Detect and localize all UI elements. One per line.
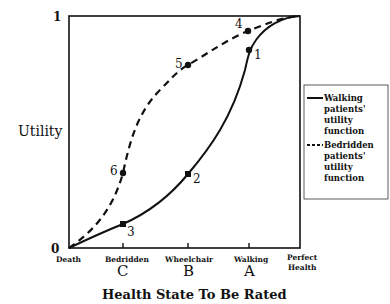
x-label-perfect: Perfect bbox=[287, 253, 318, 262]
legend-walking-line-3: utility bbox=[324, 115, 354, 125]
x-label-health: Health bbox=[288, 263, 317, 272]
point-4 bbox=[245, 28, 251, 34]
legend-walking-line-2: patients' bbox=[324, 104, 366, 114]
point-1 bbox=[246, 47, 252, 53]
point-5 bbox=[185, 62, 191, 68]
legend-bedridden-line-3: utility bbox=[324, 162, 354, 172]
point-label-1: 1 bbox=[254, 48, 262, 62]
legend-bedridden-line-2: patients' bbox=[324, 151, 366, 161]
x-axis-title: Health State To Be Rated bbox=[102, 287, 287, 302]
category-letter-b: B bbox=[183, 262, 194, 280]
category-letter-a: A bbox=[243, 262, 255, 280]
legend-bedridden-line-4: function bbox=[324, 173, 364, 183]
point-label-2: 2 bbox=[193, 172, 201, 186]
y-tick-0: 0 bbox=[51, 242, 59, 256]
point-3 bbox=[120, 221, 126, 227]
point-label-4: 4 bbox=[235, 17, 243, 31]
x-label-death: Death bbox=[56, 255, 82, 264]
point-label-6: 6 bbox=[110, 164, 118, 178]
bedridden-utility-curve bbox=[69, 16, 300, 248]
utility-chart: 1 0 Utility Death Bedridden Wheelchair W… bbox=[0, 0, 390, 304]
category-letter-c: C bbox=[117, 262, 128, 280]
y-axis-label: Utility bbox=[18, 123, 62, 139]
legend: Walking patients' utility function Bedri… bbox=[304, 85, 388, 199]
point-2 bbox=[185, 171, 191, 177]
point-6 bbox=[120, 170, 126, 176]
legend-walking-line-1: Walking bbox=[323, 93, 363, 103]
point-label-5: 5 bbox=[175, 57, 183, 71]
data-points bbox=[120, 28, 252, 227]
legend-bedridden-line-1: Bedridden bbox=[324, 140, 374, 150]
point-label-3: 3 bbox=[127, 225, 135, 239]
legend-walking-line-4: function bbox=[324, 126, 364, 136]
y-tick-1: 1 bbox=[53, 10, 61, 24]
